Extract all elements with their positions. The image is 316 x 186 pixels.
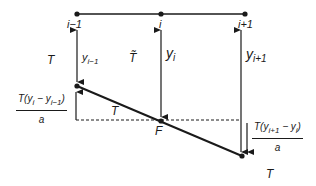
right-fraction-numerator: T(yi+1 − yi) [252,122,303,139]
string-dot-i-plus-1 [239,153,244,158]
node-dot-i-plus-1 [242,11,247,16]
node-label-i-plus-1: i+1 [238,19,253,30]
right-force-fraction: T(yi+1 − yi) a [252,122,303,153]
tension-label-middle: T̃ [129,52,136,64]
node-dot-i-minus-1 [74,11,79,16]
displacement-label-i-plus-1: yi+1 [246,47,267,64]
displacement-label-i: yi [166,46,175,63]
point-F-dot [158,118,163,123]
point-label-F: F [155,125,162,137]
left-force-fraction: T(yi − yi−1) a [16,94,67,125]
node-label-i: i [159,19,161,30]
left-fraction-denominator: a [16,111,67,125]
left-fraction-numerator: T(yi − yi−1) [16,94,67,111]
string-dot-i-minus-1 [74,83,79,88]
displacement-label-i-minus-1: yi−1 [82,52,98,66]
tension-label-left: T [47,54,54,66]
right-fraction-denominator: a [252,139,303,153]
node-dot-i [158,11,163,16]
tension-label-segment: T [111,105,118,117]
node-label-i-minus-1: i−1 [67,19,82,30]
tension-label-bottom-right: T [266,168,273,180]
